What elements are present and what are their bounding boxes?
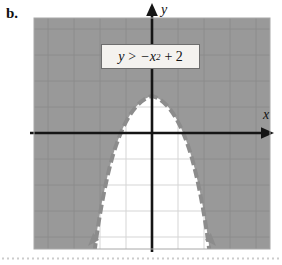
inequality-relation: > <box>128 49 136 65</box>
inequality-graph <box>0 0 282 265</box>
inequality-lhs: y <box>118 49 124 65</box>
inequality-rhs-lead: −x <box>140 49 156 65</box>
inequality-rhs-tail: + 2 <box>164 49 182 65</box>
y-axis-arrowhead <box>146 3 158 16</box>
figure-container: b. <box>0 0 282 265</box>
inequality-label-box: y > −x2 + 2 <box>101 44 200 69</box>
x-axis-label: x <box>263 108 269 122</box>
y-axis-label: y <box>161 3 167 17</box>
inequality-exponent: 2 <box>156 52 161 62</box>
